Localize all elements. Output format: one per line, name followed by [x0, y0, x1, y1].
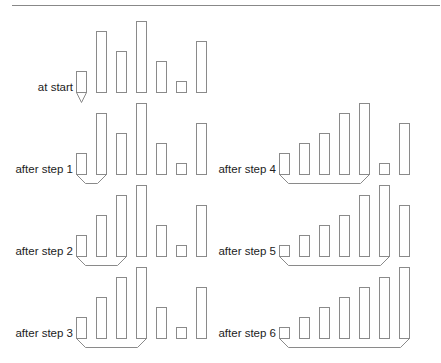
- bar: [380, 278, 390, 339]
- bar: [177, 328, 187, 339]
- panel: after step 2: [15, 186, 206, 266]
- bar: [77, 318, 87, 339]
- panel-label: after step 2: [15, 245, 73, 257]
- bar: [117, 196, 127, 257]
- bar: [280, 328, 290, 339]
- bar: [197, 42, 207, 93]
- bar: [157, 308, 167, 339]
- bar: [97, 298, 107, 339]
- bar: [340, 216, 350, 257]
- panels: at startafter step 1after step 2after st…: [15, 22, 409, 348]
- panel: at start: [38, 22, 207, 103]
- bar: [117, 278, 127, 339]
- bar: [320, 226, 330, 257]
- bar: [137, 104, 147, 175]
- bar: [380, 164, 390, 175]
- bar: [97, 114, 107, 175]
- bar: [320, 134, 330, 175]
- bar: [400, 268, 410, 339]
- bar: [177, 82, 187, 93]
- bar: [340, 298, 350, 339]
- bar: [360, 104, 370, 175]
- sorted-region-bracket: [280, 257, 390, 266]
- panel: after step 3: [15, 268, 206, 348]
- bar: [77, 236, 87, 257]
- bar: [300, 318, 310, 339]
- bar: [117, 52, 127, 93]
- bar: [137, 186, 147, 257]
- bar: [137, 22, 147, 93]
- bar: [77, 154, 87, 175]
- bar: [77, 72, 87, 93]
- bar: [340, 114, 350, 175]
- bar: [360, 288, 370, 339]
- panel: after step 4: [218, 104, 409, 184]
- bar: [300, 236, 310, 257]
- sorted-marker-triangle: [77, 93, 87, 103]
- bar: [177, 164, 187, 175]
- bar: [400, 206, 410, 257]
- sorted-region-bracket: [280, 175, 370, 184]
- panel-label: after step 4: [218, 163, 276, 175]
- sorted-region-bracket: [77, 175, 107, 184]
- bar: [157, 62, 167, 93]
- panel-label: after step 1: [15, 163, 73, 175]
- bar: [360, 196, 370, 257]
- sorted-region-bracket: [280, 339, 410, 348]
- panel-label: after step 5: [218, 245, 276, 257]
- sorted-region-bracket: [77, 257, 127, 266]
- bar: [97, 32, 107, 93]
- bar: [177, 246, 187, 257]
- panel-label: at start: [38, 81, 74, 93]
- bar: [137, 268, 147, 339]
- panel: after step 1: [15, 104, 206, 184]
- bar: [300, 144, 310, 175]
- panel: after step 5: [218, 186, 409, 266]
- bar: [197, 206, 207, 257]
- panel-label: after step 3: [15, 327, 73, 339]
- panel: after step 6: [218, 268, 409, 348]
- bar: [97, 216, 107, 257]
- bar: [400, 124, 410, 175]
- bar: [117, 134, 127, 175]
- bar: [157, 226, 167, 257]
- bar: [197, 288, 207, 339]
- bar: [380, 186, 390, 257]
- bar: [320, 308, 330, 339]
- bar: [280, 154, 290, 175]
- insertion-sort-diagram: at startafter step 1after step 2after st…: [0, 0, 441, 363]
- bar: [280, 246, 290, 257]
- bar: [157, 144, 167, 175]
- bar: [197, 124, 207, 175]
- panel-label: after step 6: [218, 327, 276, 339]
- sorted-region-bracket: [77, 339, 147, 348]
